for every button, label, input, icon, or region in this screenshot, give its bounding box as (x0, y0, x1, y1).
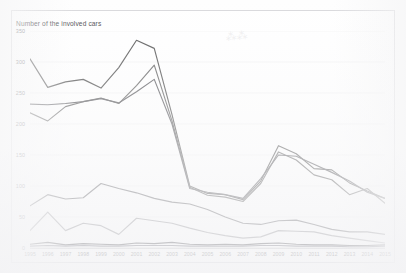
y-tick-label: 50 (7, 214, 25, 220)
x-tick-label: 2015 (374, 251, 396, 257)
series-paths (30, 40, 385, 246)
series-line-series-7 (30, 246, 385, 247)
series-line-series-1 (30, 40, 385, 199)
y-tick-label: 350 (7, 28, 25, 34)
line-chart-svg (30, 31, 385, 248)
y-tick-label: 150 (7, 152, 25, 158)
y-tick-label: 300 (7, 59, 25, 65)
y-tick-label: 200 (7, 121, 25, 127)
scanned-page: Number of the involved cars ⁂⁂ 050100150… (0, 0, 406, 273)
plot-area (30, 31, 385, 248)
y-tick-label: 100 (7, 183, 25, 189)
series-line-series-2 (30, 65, 385, 203)
y-tick-label: 250 (7, 90, 25, 96)
series-line-series-5 (30, 212, 385, 243)
x-axis-line (30, 248, 385, 249)
chart-title: Number of the involved cars (16, 20, 101, 27)
gridlines (30, 31, 385, 248)
series-line-series-4 (30, 184, 385, 235)
